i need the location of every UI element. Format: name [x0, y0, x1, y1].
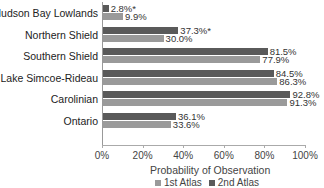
- value-label: 91.3%: [289, 98, 316, 107]
- x-axis-line: [102, 145, 306, 146]
- x-tick: [143, 145, 144, 148]
- x-tick: [102, 145, 103, 148]
- legend-label-2nd-atlas: 2nd Atlas: [218, 177, 259, 188]
- bar-2nd-atlas: [103, 113, 176, 120]
- bar-1st-atlas: [103, 99, 287, 106]
- bar-1st-atlas: [103, 56, 260, 63]
- legend: 1st Atlas 2nd Atlas: [155, 177, 259, 188]
- value-label: 9.9%: [125, 12, 147, 21]
- value-label: 30.0%: [166, 34, 193, 43]
- legend-swatch-1st-atlas: [155, 180, 161, 186]
- bar-1st-atlas: [103, 35, 164, 42]
- x-tick-label: 0%: [95, 150, 109, 161]
- category-label: Ontario: [64, 115, 98, 127]
- category-label: Carolinian: [51, 93, 98, 105]
- category-label: Northern Shield: [25, 29, 98, 41]
- bar-2nd-atlas: [103, 5, 109, 12]
- category-label: Southern Shield: [23, 50, 98, 62]
- category-label: Hudson Bay Lowlands: [0, 7, 98, 19]
- x-tick-label: 80%: [254, 150, 274, 161]
- bar-2nd-atlas: [103, 70, 274, 77]
- x-tick: [183, 145, 184, 148]
- x-tick-label: 60%: [214, 150, 234, 161]
- x-tick-label: 100%: [292, 150, 318, 161]
- x-tick-label: 40%: [173, 150, 193, 161]
- x-tick-label: 20%: [133, 150, 153, 161]
- bar-1st-atlas: [103, 121, 171, 128]
- x-tick: [305, 145, 306, 148]
- bar-2nd-atlas: [103, 48, 268, 55]
- legend-label-1st-atlas: 1st Atlas: [164, 177, 202, 188]
- x-tick: [264, 145, 265, 148]
- bar-1st-atlas: [103, 78, 277, 85]
- x-axis-title: Probability of Observation: [150, 164, 270, 176]
- bar-chart: Hudson Bay Lowlands2.8%*9.9%Northern Shi…: [0, 0, 324, 188]
- value-label: 77.9%: [262, 55, 289, 64]
- x-tick: [224, 145, 225, 148]
- legend-swatch-2nd-atlas: [209, 180, 215, 186]
- bar-2nd-atlas: [103, 91, 290, 98]
- value-label: 86.3%: [279, 77, 306, 86]
- value-label: 33.6%: [173, 120, 200, 129]
- bar-1st-atlas: [103, 13, 123, 20]
- category-label: Lake Simcoe-Rideau: [1, 72, 98, 84]
